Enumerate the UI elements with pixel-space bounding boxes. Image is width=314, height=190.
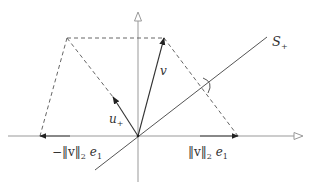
neg-e1-prefix: − <box>52 145 62 159</box>
subspace-line <box>95 37 267 170</box>
pos-e1-label: ‖v‖2 e1 <box>188 146 228 161</box>
vector-u-plus-label: u+ <box>109 113 123 128</box>
pos-e1-basis-sub: 1 <box>223 152 228 161</box>
origin-point <box>137 135 140 138</box>
neg-e1-norm-sub: 2 <box>81 152 86 161</box>
vector-v-label: v <box>160 65 167 77</box>
subspace-label-base: S <box>272 34 281 49</box>
u-plus-label-sub: + <box>117 119 124 128</box>
diagram-svg <box>0 0 314 190</box>
subspace-label-sub: + <box>281 42 288 51</box>
diagram-canvas: S+ v u+ −‖v‖2 e1 ‖v‖2 e1 <box>0 0 314 190</box>
pos-e1-norm-sub: 2 <box>207 152 212 161</box>
u-plus-label-base: u <box>109 112 117 126</box>
neg-e1-label: −‖v‖2 e1 <box>52 146 102 161</box>
vertical-axis-arrow-icon <box>135 12 142 21</box>
pos-e1-norm: ‖v‖ <box>188 145 207 159</box>
vector-v <box>138 38 164 136</box>
neg-e1-norm: ‖v‖ <box>62 145 81 159</box>
horizontal-axis-arrow-icon <box>294 133 303 140</box>
dashed-construction <box>40 38 238 136</box>
subspace-label: S+ <box>272 35 288 51</box>
neg-e1-basis-sub: 1 <box>97 152 102 161</box>
neg-e1-basis: e <box>90 145 97 159</box>
pos-e1-basis: e <box>216 145 223 159</box>
vector-v-label-text: v <box>160 64 167 78</box>
